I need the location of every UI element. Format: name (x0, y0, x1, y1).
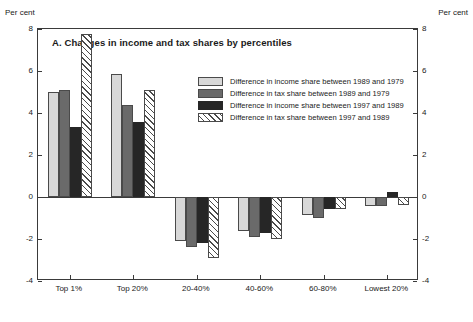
bar (59, 90, 70, 197)
bar (70, 127, 81, 197)
bar (376, 197, 387, 206)
bar (111, 74, 122, 197)
bar (197, 197, 208, 243)
zero-baseline (38, 197, 417, 198)
legend-label: Difference in tax share between 1997 and… (230, 113, 389, 122)
y-axis-tick-label: 2 (29, 151, 33, 159)
x-axis-category-label: Top 1% (55, 284, 82, 293)
x-axis-tick-mark (387, 275, 388, 279)
x-axis-tick-mark (324, 275, 325, 279)
y-axis-tick-label: 6 (422, 67, 426, 75)
x-axis-category-label: Top 20% (117, 284, 148, 293)
y-axis-tick-label: 4 (29, 109, 33, 117)
y-axis-tick-mark (38, 113, 42, 114)
y-axis-tick-label: 4 (422, 109, 426, 117)
legend-label: Difference in income share between 1997 … (230, 101, 404, 110)
bar (122, 105, 133, 197)
bar (335, 197, 346, 209)
y-axis-tick-label: -2 (26, 235, 33, 243)
x-axis-category-label: 60-80% (309, 284, 337, 293)
y-axis-tick-mark (413, 239, 417, 240)
y-axis-tick-mark (413, 113, 417, 114)
y-axis-tick-mark (413, 71, 417, 72)
y-axis-tick-label: 0 (29, 193, 33, 201)
y-axis-tick-mark (38, 29, 42, 30)
legend-item: Difference in income share between 1989 … (198, 76, 404, 87)
legend-item: Difference in income share between 1997 … (198, 100, 404, 111)
legend-label: Difference in tax share between 1989 and… (230, 89, 389, 98)
y-axis-tick-label: 6 (29, 67, 33, 75)
y-axis-tick-label: -4 (422, 277, 429, 285)
plot-area: A. Changes in income and tax shares by p… (37, 28, 418, 280)
y-axis-tick-mark (413, 155, 417, 156)
right-axis-unit-label: Per cent (438, 8, 468, 17)
y-axis-tick-mark (38, 71, 42, 72)
x-axis-category-label: 40-60% (245, 284, 273, 293)
y-axis-tick-label: 8 (422, 25, 426, 33)
bar (365, 197, 376, 206)
bar (398, 197, 409, 205)
legend-label: Difference in income share between 1989 … (230, 77, 404, 86)
bar (324, 197, 335, 209)
x-axis-tick-mark (70, 275, 71, 279)
bar (144, 90, 155, 197)
x-axis-tick-mark (260, 275, 261, 279)
legend-item: Difference in tax share between 1997 and… (198, 112, 404, 123)
chart-legend: Difference in income share between 1989 … (198, 76, 404, 123)
y-axis-tick-label: 8 (29, 25, 33, 33)
bar (313, 197, 324, 218)
bar (387, 192, 398, 197)
bar (271, 197, 282, 239)
y-axis-tick-mark (413, 29, 417, 30)
bar (238, 197, 249, 231)
y-axis-tick-label: -2 (422, 235, 429, 243)
y-axis-tick-label: 0 (422, 193, 426, 201)
y-axis-tick-mark (413, 281, 417, 282)
left-axis-unit-label: Per cent (5, 8, 35, 17)
legend-swatch (198, 113, 223, 122)
bar (133, 122, 144, 197)
x-axis-tick-mark (133, 275, 134, 279)
bar (186, 197, 197, 247)
legend-item: Difference in tax share between 1989 and… (198, 88, 404, 99)
y-axis-tick-label: -4 (26, 277, 33, 285)
y-axis-tick-mark (38, 239, 42, 240)
x-axis-category-label: 20-40% (182, 284, 210, 293)
y-axis-tick-label: 2 (422, 151, 426, 159)
bar (302, 197, 313, 215)
bar (249, 197, 260, 237)
bar (208, 197, 219, 258)
bar (260, 197, 271, 233)
legend-swatch (198, 77, 223, 86)
x-axis-tick-mark (197, 275, 198, 279)
bar (175, 197, 186, 241)
legend-swatch (198, 101, 223, 110)
y-axis-tick-mark (38, 281, 42, 282)
bar (81, 34, 92, 197)
bar (48, 92, 59, 197)
y-axis-tick-mark (38, 155, 42, 156)
x-axis-category-label: Lowest 20% (364, 284, 408, 293)
legend-swatch (198, 89, 223, 98)
